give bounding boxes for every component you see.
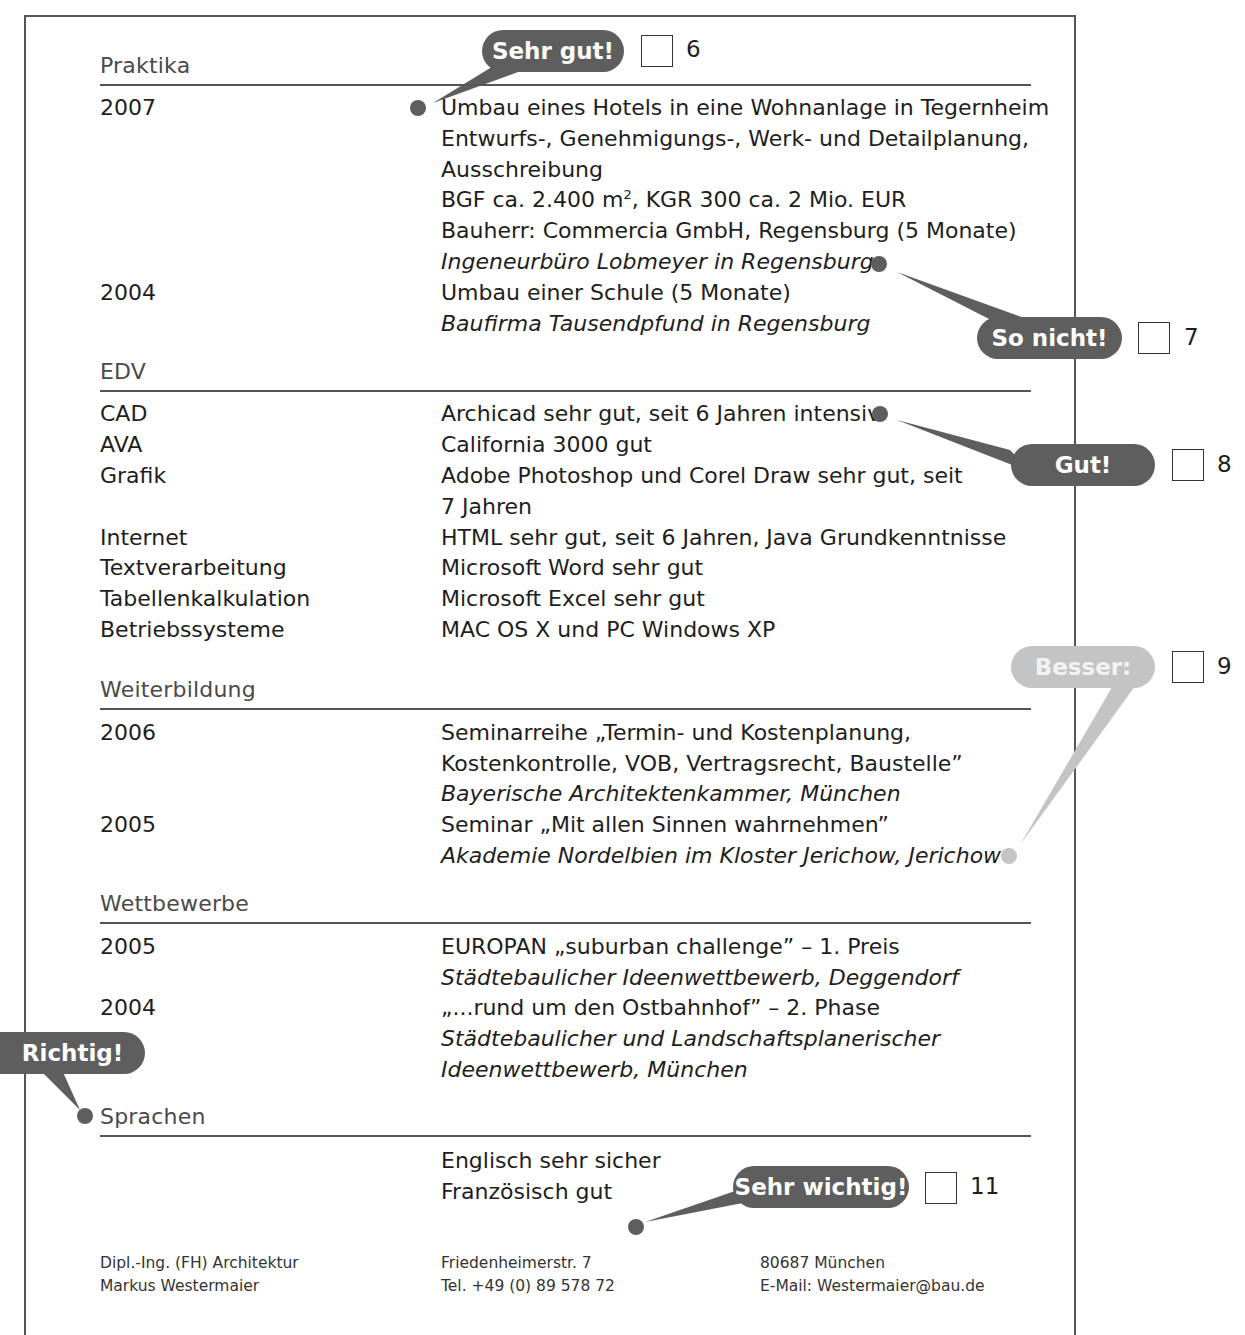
entry-line: Bauherr: Commercia GmbH, Regensburg (5 M…	[441, 218, 1017, 243]
entry-line: Seminarreihe „Termin- und Kostenplanung,	[441, 720, 911, 745]
entry-line-area: BGF ca. 2.400 m2, KGR 300 ca. 2 Mio. EUR	[441, 187, 906, 212]
entry-year: 2007	[100, 95, 156, 120]
answer-checkbox-7[interactable]	[1138, 322, 1170, 354]
entry-year: 2005	[100, 934, 156, 959]
skill-label: Internet	[100, 525, 187, 550]
answer-checkbox-8[interactable]	[1172, 449, 1204, 481]
entry-year: 2004	[100, 280, 156, 305]
question-number: 8	[1217, 451, 1232, 477]
skill-value: Microsoft Excel sehr gut	[441, 586, 705, 611]
language-line: Englisch sehr sicher	[441, 1148, 661, 1173]
section-rule	[100, 1135, 1031, 1137]
skill-label: Tabellenkalkulation	[100, 586, 310, 611]
entry-line-detail: Ideenwettbewerb, München	[441, 1057, 748, 1082]
question-number: 7	[1184, 324, 1199, 350]
skill-label: Betriebssysteme	[100, 617, 284, 642]
skill-value: MAC OS X und PC Windows XP	[441, 617, 775, 642]
entry-line: Umbau eines Hotels in eine Wohnanlage in…	[441, 95, 1049, 120]
skill-label: CAD	[100, 401, 147, 426]
entry-line: EUROPAN „suburban challenge” – 1. Preis	[441, 934, 900, 959]
entry-line-employer: Ingeneurbüro Lobmeyer in Regensburg	[441, 249, 874, 274]
answer-checkbox-11[interactable]	[925, 1172, 957, 1204]
skill-label: AVA	[100, 432, 142, 457]
entry-line-detail: Städtebaulicher Ideenwettbewerb, Deggend…	[441, 965, 959, 990]
entry-line: Ausschreibung	[441, 157, 603, 182]
annotation-marker-dot	[872, 406, 888, 422]
entry-year: 2004	[100, 995, 156, 1020]
annotation-marker-dot	[410, 100, 426, 116]
document-frame	[24, 15, 1076, 1335]
entry-line: „...rund um den Ostbahnhof” – 2. Phase	[441, 995, 880, 1020]
annotation-bubble-gut: Gut!	[1011, 444, 1155, 486]
annotation-marker-dot	[77, 1108, 93, 1124]
annotation-bubble-sehr-gut: Sehr gut!	[482, 30, 624, 72]
annotation-marker-dot	[628, 1219, 644, 1235]
annotation-bubble-sehr-wichtig: Sehr wichtig!	[733, 1166, 909, 1208]
footer-qualification: Dipl.-Ing. (FH) Architektur	[100, 1252, 299, 1274]
skill-value: HTML sehr gut, seit 6 Jahren, Java Grund…	[441, 525, 1006, 550]
skill-value: Adobe Photoshop und Corel Draw sehr gut,…	[441, 463, 963, 488]
section-title-sprachen: Sprachen	[100, 1104, 206, 1129]
answer-checkbox-6[interactable]	[641, 35, 673, 67]
answer-checkbox-9[interactable]	[1172, 651, 1204, 683]
annotation-bubble-richtig: Richtig!	[0, 1032, 145, 1074]
footer-name: Markus Westermaier	[100, 1275, 259, 1297]
skill-value: Microsoft Word sehr gut	[441, 555, 703, 580]
entry-year: 2005	[100, 812, 156, 837]
section-rule	[100, 708, 1031, 710]
entry-line-institution: Akademie Nordelbien im Kloster Jerichow,…	[441, 843, 1001, 868]
footer-city: 80687 München	[760, 1252, 885, 1274]
skill-label: Grafik	[100, 463, 166, 488]
annotation-marker-dot	[1001, 848, 1017, 864]
entry-line: Kostenkontrolle, VOB, Vertragsrecht, Bau…	[441, 751, 963, 776]
annotation-bubble-so-nicht: So nicht!	[977, 317, 1122, 359]
area-text: BGF ca. 2.400 m	[441, 187, 623, 212]
skill-value-cont: 7 Jahren	[441, 494, 532, 519]
entry-line-employer: Baufirma Tausendpfund in Regensburg	[441, 311, 870, 336]
question-number: 9	[1217, 653, 1232, 679]
skill-label: Textverarbeitung	[100, 555, 287, 580]
cost-text: , KGR 300 ca. 2 Mio. EUR	[632, 187, 907, 212]
footer-street: Friedenheimerstr. 7	[441, 1252, 592, 1274]
skill-value: Archicad sehr gut, seit 6 Jahren intensi…	[441, 401, 880, 426]
question-number: 11	[970, 1173, 999, 1199]
area-superscript: 2	[623, 187, 631, 202]
skill-value: California 3000 gut	[441, 432, 652, 457]
section-rule	[100, 84, 1031, 86]
section-title-praktika: Praktika	[100, 53, 190, 78]
footer-phone: Tel. +49 (0) 89 578 72	[441, 1275, 615, 1297]
section-rule	[100, 922, 1031, 924]
entry-line: Seminar „Mit allen Sinnen wahrnehmen”	[441, 812, 889, 837]
entry-line-detail: Städtebaulicher und Landschaftsplanerisc…	[441, 1026, 940, 1051]
annotation-bubble-besser: Besser:	[1011, 646, 1155, 688]
question-number: 6	[686, 36, 701, 62]
section-rule	[100, 390, 1031, 392]
section-title-wettbewerbe: Wettbewerbe	[100, 891, 249, 916]
entry-line: Umbau einer Schule (5 Monate)	[441, 280, 791, 305]
footer-email: E-Mail: Westermaier@bau.de	[760, 1275, 985, 1297]
section-title-edv: EDV	[100, 359, 146, 384]
entry-line: Entwurfs-, Genehmigungs-, Werk- und Deta…	[441, 126, 1029, 151]
section-title-weiterbildung: Weiterbildung	[100, 677, 256, 702]
language-line: Französisch gut	[441, 1179, 612, 1204]
entry-line-institution: Bayerische Architektenkammer, München	[441, 781, 901, 806]
annotation-marker-dot	[871, 256, 887, 272]
entry-year: 2006	[100, 720, 156, 745]
